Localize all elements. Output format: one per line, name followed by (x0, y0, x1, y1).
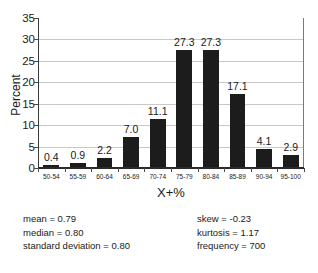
bar-value-label: 7.0 (118, 123, 145, 135)
x-axis-tick-mark (91, 168, 92, 172)
statistics-summary: mean = 0.79median = 0.80standard deviati… (0, 212, 318, 262)
bar-value-label: 17.1 (224, 80, 251, 92)
bar (97, 158, 113, 167)
x-axis-tick-label: 80-84 (203, 173, 220, 180)
x-axis-tick-mark (224, 168, 225, 172)
bar (203, 50, 219, 167)
x-axis-tick-label: 70-74 (149, 173, 166, 180)
bar-slot: 11.1 (144, 18, 171, 167)
statistic-line: kurtosis = 1.17 (197, 226, 265, 240)
bar-value-label: 0.9 (65, 149, 92, 161)
statistic-line: standard deviation = 0.80 (23, 239, 130, 253)
x-axis-tick-mark (171, 168, 172, 172)
x-axis-title: X+% (38, 185, 304, 200)
bar (123, 137, 139, 167)
bar (230, 94, 246, 167)
bar-slot: 17.1 (224, 18, 251, 167)
statistic-line: frequency = 700 (197, 239, 265, 253)
bar-series: 0.40.92.27.011.127.327.317.14.12.9 (38, 18, 304, 167)
x-axis-tick-label: 60-64 (96, 173, 113, 180)
bar (176, 50, 192, 167)
x-axis-tick-label: 90-94 (256, 173, 273, 180)
x-axis-tick-labels: 50-5455-5960-6465-6970-7475-7980-8485-89… (38, 173, 304, 185)
bar (256, 149, 272, 167)
bar-value-label: 0.4 (38, 151, 65, 163)
bar-slot: 2.2 (91, 18, 118, 167)
statistic-line: median = 0.80 (23, 226, 130, 240)
x-axis-tick-label: 85-89 (229, 173, 246, 180)
x-axis-tick-mark (144, 168, 145, 172)
bar (43, 165, 59, 167)
bar (283, 155, 299, 167)
chart-plot-area: Percent 05101520253035 0.40.92.27.011.12… (0, 0, 318, 205)
x-axis-tick-mark (118, 168, 119, 172)
bar-slot: 0.4 (38, 18, 65, 167)
y-axis-tick-labels: 05101520253035 (14, 13, 35, 168)
bar-slot: 27.3 (171, 18, 198, 167)
statistics-column-left: mean = 0.79median = 0.80standard deviati… (23, 212, 130, 253)
bar (70, 163, 86, 167)
bar (150, 119, 166, 167)
x-axis-tick-label: 55-59 (70, 173, 87, 180)
x-axis-tick-mark (251, 168, 252, 172)
x-axis-tick-marks (38, 168, 304, 172)
x-axis-tick-mark (65, 168, 66, 172)
x-axis-tick-mark (198, 168, 199, 172)
bar-value-label: 27.3 (198, 36, 225, 48)
bar-value-label: 27.3 (171, 36, 198, 48)
bar-value-label: 2.2 (91, 144, 118, 156)
x-axis-tick-label: 75-79 (176, 173, 193, 180)
bar-slot: 4.1 (251, 18, 278, 167)
x-axis-tick-mark (38, 168, 39, 172)
statistic-line: mean = 0.79 (23, 212, 130, 226)
bar-slot: 7.0 (118, 18, 145, 167)
x-axis-tick-label: 95-100 (281, 173, 301, 180)
statistics-column-right: skew = -0.23kurtosis = 1.17frequency = 7… (197, 212, 265, 253)
x-axis-tick-mark (304, 168, 305, 172)
bar-slot: 2.9 (277, 18, 304, 167)
bar-slot: 27.3 (198, 18, 225, 167)
x-axis-tick-label: 50-54 (43, 173, 60, 180)
bar-slot: 0.9 (65, 18, 92, 167)
statistic-line: skew = -0.23 (197, 212, 265, 226)
bar-value-label: 2.9 (277, 141, 304, 153)
x-axis-tick-mark (277, 168, 278, 172)
histogram-figure: Percent 05101520253035 0.40.92.27.011.12… (0, 0, 318, 273)
bar-value-label: 11.1 (144, 105, 171, 117)
x-axis-tick-label: 65-69 (123, 173, 140, 180)
bar-value-label: 4.1 (251, 135, 278, 147)
